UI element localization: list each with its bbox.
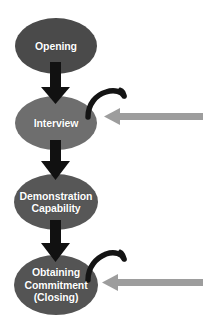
flowchart-diagram: Opening Interview Demonstration Capabili…: [0, 0, 203, 324]
callout-arrow-interview[interactable]: [104, 108, 203, 125]
node-obtaining-commitment[interactable]: [14, 255, 98, 315]
callout-arrow-obtaining-commitment[interactable]: [102, 274, 203, 291]
diagram-canvas: [0, 0, 203, 324]
